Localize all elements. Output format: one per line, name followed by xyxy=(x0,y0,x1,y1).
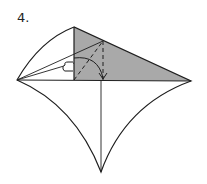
repeat-behind-icon xyxy=(63,62,73,71)
origami-diagram xyxy=(0,0,207,184)
